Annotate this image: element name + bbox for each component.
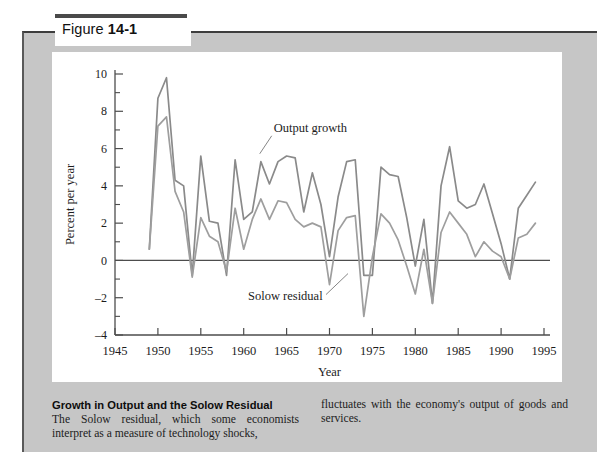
- svg-text:1995: 1995: [532, 344, 557, 358]
- svg-text:Solow residual: Solow residual: [248, 289, 323, 303]
- svg-text:1970: 1970: [317, 344, 342, 358]
- svg-text:1965: 1965: [274, 344, 299, 358]
- svg-text:6: 6: [101, 142, 107, 156]
- svg-text:2: 2: [101, 216, 107, 230]
- line-chart: –4–2024681019451950195519601965197019751…: [52, 52, 562, 382]
- figure-caption: Growth in Output and the Solow ResidualT…: [52, 398, 568, 442]
- svg-text:–4: –4: [94, 328, 107, 342]
- figure-label-prefix: Figure: [62, 21, 104, 37]
- figure-page: Figure 14-1 –4–2024681019451950195519601…: [0, 0, 597, 452]
- caption-column-left: Growth in Output and the Solow ResidualT…: [52, 398, 299, 442]
- figure-label-number: 14-1: [108, 21, 137, 37]
- figure-tab-rule: [55, 14, 187, 18]
- svg-text:1975: 1975: [360, 344, 385, 358]
- svg-text:1980: 1980: [403, 344, 428, 358]
- svg-text:1955: 1955: [188, 344, 213, 358]
- svg-text:8: 8: [101, 104, 107, 118]
- figure-label: Figure 14-1: [62, 21, 137, 37]
- svg-text:1945: 1945: [103, 344, 128, 358]
- svg-text:1950: 1950: [145, 344, 170, 358]
- svg-text:Output growth: Output growth: [274, 121, 348, 135]
- svg-text:–2: –2: [94, 291, 107, 305]
- caption-column-right: fluctuates with the economy's output of …: [321, 398, 568, 442]
- svg-text:1960: 1960: [231, 344, 256, 358]
- svg-text:4: 4: [101, 179, 107, 193]
- svg-text:10: 10: [95, 67, 107, 81]
- caption-body-left: The Solow residual, which some economist…: [52, 413, 299, 440]
- caption-body-right: fluctuates with the economy's output of …: [321, 398, 568, 425]
- svg-text:Percent per year: Percent per year: [63, 163, 77, 245]
- svg-text:0: 0: [101, 254, 107, 268]
- chart-plate: –4–2024681019451950195519601965197019751…: [52, 52, 562, 382]
- svg-text:1990: 1990: [489, 344, 514, 358]
- svg-text:Year: Year: [318, 365, 342, 379]
- caption-title: Growth in Output and the Solow Residual: [52, 398, 299, 412]
- svg-text:1985: 1985: [446, 344, 471, 358]
